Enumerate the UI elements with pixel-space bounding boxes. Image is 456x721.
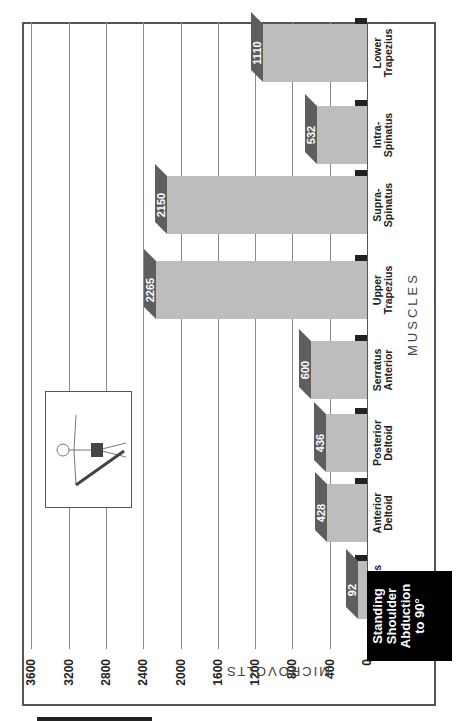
bar-value-label: 92 bbox=[346, 561, 358, 619]
x-category-label: SerratusAnterior bbox=[372, 330, 394, 410]
y-axis-label: MICROVOLTS bbox=[225, 664, 330, 679]
gridline bbox=[218, 22, 219, 649]
x-category-label: LowerTrapezius bbox=[372, 13, 394, 93]
bar-value-label: 428 bbox=[315, 484, 327, 542]
x-category-label: UpperTrapezius bbox=[372, 250, 394, 330]
bar-front bbox=[311, 341, 367, 399]
gridline bbox=[292, 22, 293, 649]
exercise-illustration bbox=[45, 391, 132, 508]
bar-front bbox=[156, 261, 367, 319]
chart-caption: Standing Shoulder Abduction to 90° bbox=[367, 571, 452, 661]
gridline bbox=[31, 22, 32, 649]
figure-with-resistance-band-icon bbox=[46, 392, 131, 507]
bar-front bbox=[167, 176, 367, 234]
x-category-label: Supra-Spinatus bbox=[372, 165, 394, 245]
bar-front bbox=[358, 561, 367, 619]
bar-value-label: 2150 bbox=[155, 176, 167, 234]
y-tick-label: 2400 bbox=[137, 659, 149, 699]
baseline bbox=[367, 22, 368, 649]
gridline bbox=[143, 22, 144, 649]
gridline bbox=[69, 22, 70, 649]
x-category-label: AnteriorDeltoid bbox=[372, 473, 394, 553]
gridline bbox=[255, 22, 256, 649]
bar-value-label: 2265 bbox=[144, 261, 156, 319]
y-tick-label: 2800 bbox=[100, 659, 112, 699]
chart-stage: 04008001200160020002400280032003600 MICR… bbox=[0, 0, 456, 721]
bar-value-label: 532 bbox=[305, 106, 317, 164]
bar-front bbox=[317, 106, 367, 164]
bar-value-label: 1110 bbox=[251, 24, 263, 82]
y-tick-label: 2000 bbox=[175, 659, 187, 699]
x-category-label: Intra-Spinatus bbox=[372, 95, 394, 175]
gridline bbox=[181, 22, 182, 649]
x-axis-label: MUSCLES bbox=[405, 272, 420, 356]
bar-value-label: 600 bbox=[299, 341, 311, 399]
bar-value-label: 436 bbox=[314, 414, 326, 472]
gridline bbox=[106, 22, 107, 649]
y-tick-label: 1600 bbox=[212, 659, 224, 699]
y-tick-label: 3200 bbox=[63, 659, 75, 699]
bar-front bbox=[327, 484, 367, 542]
decorative-rule bbox=[37, 717, 152, 721]
bar-front bbox=[263, 24, 367, 82]
bar-front bbox=[326, 414, 367, 472]
y-tick-label: 0 bbox=[361, 659, 373, 699]
y-tick-label: 3600 bbox=[25, 659, 37, 699]
x-category-label: PosteriorDeltoid bbox=[372, 403, 394, 483]
